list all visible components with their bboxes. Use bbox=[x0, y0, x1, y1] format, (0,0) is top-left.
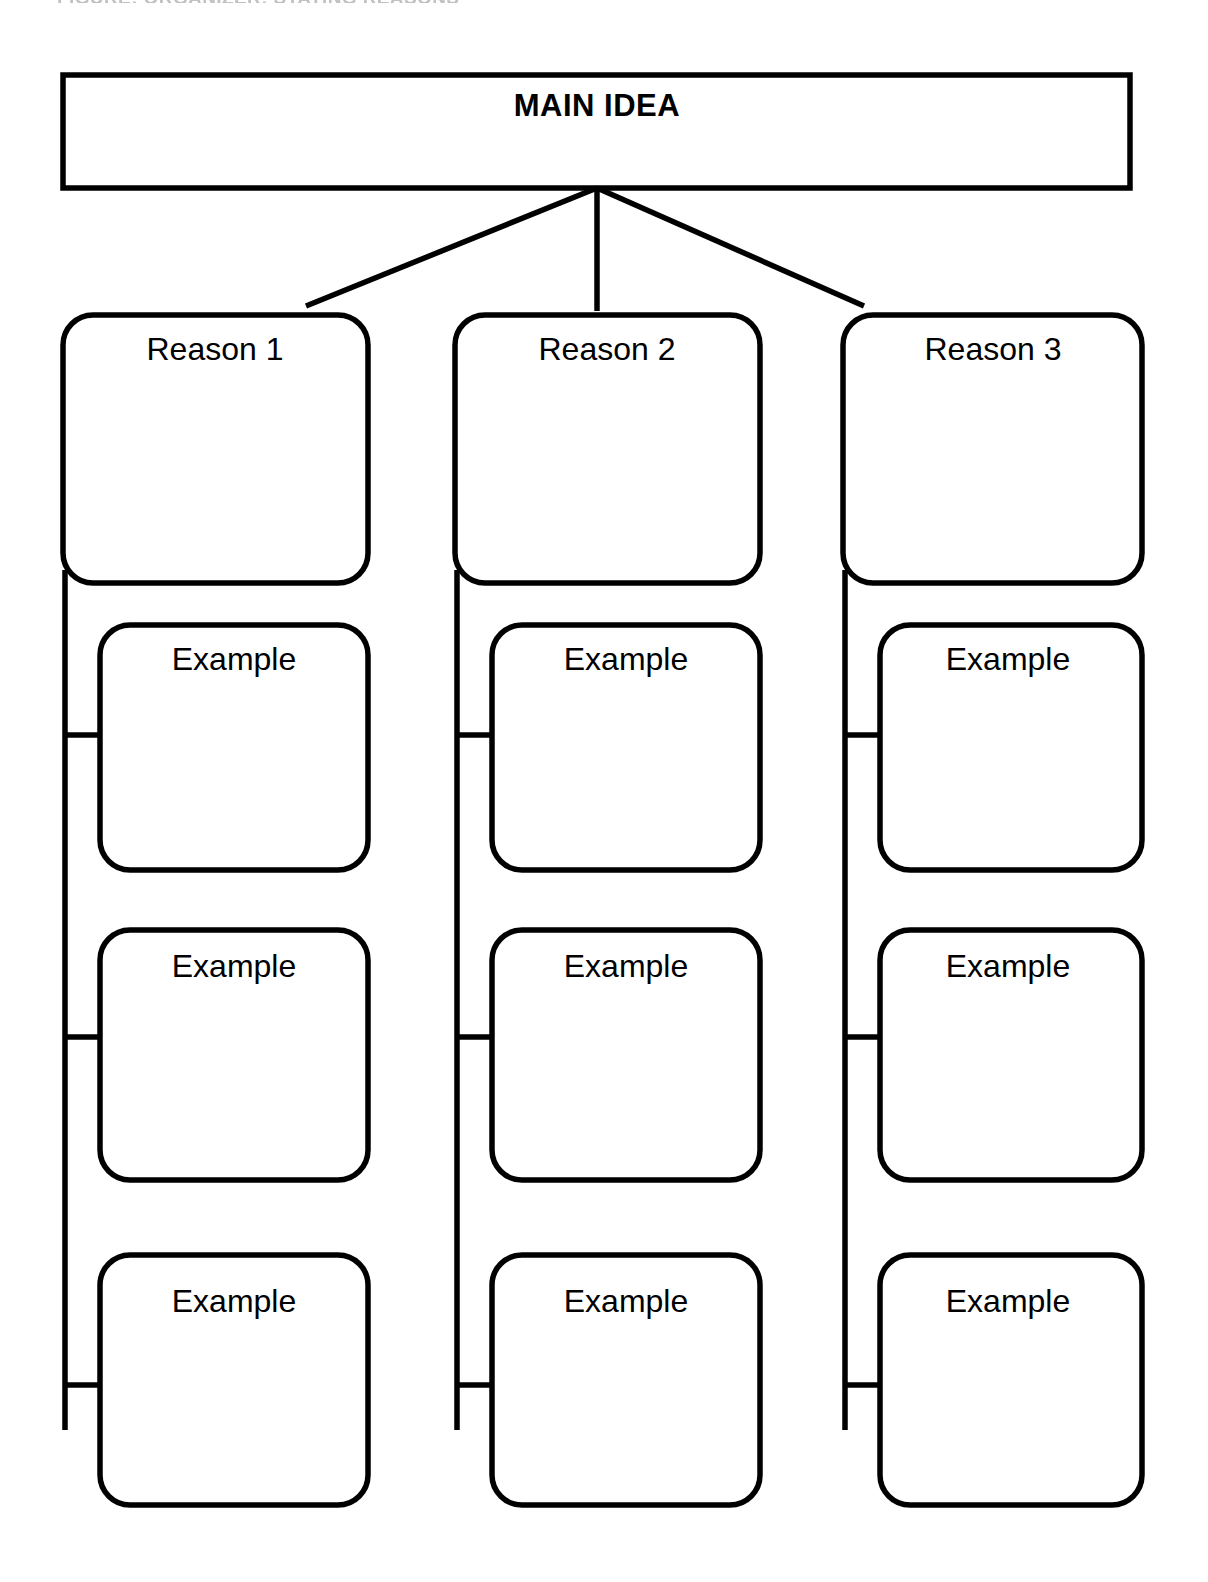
reason-node-2[interactable]: Reason 2 bbox=[455, 315, 760, 583]
reason-node-3[interactable]: Reason 3 bbox=[843, 315, 1142, 583]
reason-label-1: Reason 1 bbox=[147, 331, 284, 367]
example-label-2-3: Example bbox=[564, 1283, 689, 1319]
example-node-3-3[interactable]: Example bbox=[880, 1255, 1142, 1505]
connector-to-reason-1 bbox=[306, 188, 597, 306]
connector-group bbox=[306, 188, 864, 311]
example-label-3-1: Example bbox=[946, 641, 1071, 677]
reason-column-3: Reason 3 Example Example Example bbox=[843, 315, 1142, 1505]
example-node-2-2[interactable]: Example bbox=[492, 930, 760, 1180]
connector-to-reason-3 bbox=[597, 188, 864, 306]
example-node-1-3[interactable]: Example bbox=[100, 1255, 368, 1505]
main-idea-node[interactable]: MAIN IDEA bbox=[63, 75, 1130, 188]
example-node-1-1[interactable]: Example bbox=[100, 625, 368, 870]
example-node-2-3[interactable]: Example bbox=[492, 1255, 760, 1505]
stating-reasons-organizer: MAIN IDEA Reason 1 Example bbox=[0, 0, 1208, 1582]
example-node-2-1[interactable]: Example bbox=[492, 625, 760, 870]
example-label-1-1: Example bbox=[172, 641, 297, 677]
reason-label-3: Reason 3 bbox=[925, 331, 1062, 367]
main-idea-label: MAIN IDEA bbox=[514, 88, 680, 123]
example-label-2-1: Example bbox=[564, 641, 689, 677]
reason-column-1: Reason 1 Example Example Example bbox=[63, 315, 368, 1505]
page-canvas: FIGURE: ORGANIZER: STATING REASONS MAIN … bbox=[0, 0, 1208, 1582]
example-node-1-2[interactable]: Example bbox=[100, 930, 368, 1180]
example-label-3-3: Example bbox=[946, 1283, 1071, 1319]
example-label-2-2: Example bbox=[564, 948, 689, 984]
example-node-3-1[interactable]: Example bbox=[880, 625, 1142, 870]
reason-node-1[interactable]: Reason 1 bbox=[63, 315, 368, 583]
example-label-1-3: Example bbox=[172, 1283, 297, 1319]
reason-label-2: Reason 2 bbox=[539, 331, 676, 367]
example-node-3-2[interactable]: Example bbox=[880, 930, 1142, 1180]
example-label-1-2: Example bbox=[172, 948, 297, 984]
example-label-3-2: Example bbox=[946, 948, 1071, 984]
reason-column-2: Reason 2 Example Example Example bbox=[455, 315, 760, 1505]
